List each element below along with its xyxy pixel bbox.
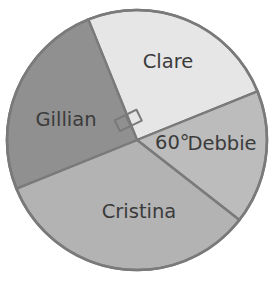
pie-chart-figure: 60° Clare Debbie Cristina Gillian	[0, 0, 274, 281]
pie-chart-svg: 60° Clare Debbie Cristina Gillian	[0, 0, 274, 281]
pie-label-debbie: Debbie	[187, 132, 256, 155]
angle-annotation-60: 60°	[155, 131, 190, 154]
pie-label-cristina: Cristina	[102, 200, 177, 223]
pie-label-clare: Clare	[143, 50, 194, 73]
pie-label-gillian: Gillian	[35, 108, 96, 131]
